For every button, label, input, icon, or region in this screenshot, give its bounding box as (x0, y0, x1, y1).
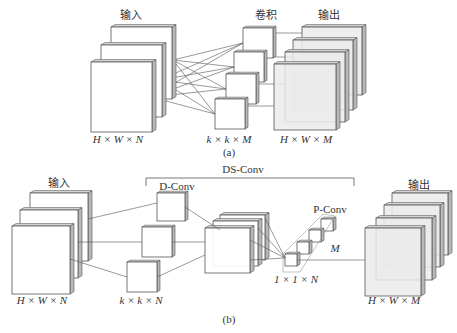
card-side (172, 225, 175, 257)
card-side (250, 226, 254, 273)
card-front (205, 228, 250, 273)
card-side (345, 50, 349, 122)
card-side (421, 226, 425, 296)
card-side (162, 43, 166, 117)
caption-b: (b) (223, 313, 236, 326)
input-card-b-3 (12, 224, 74, 294)
p-conv-label: P-Conv (313, 203, 347, 215)
card-front (215, 99, 245, 129)
card-side (321, 228, 324, 242)
p-conv-count: M (329, 242, 340, 254)
card-front (12, 226, 70, 294)
card-side (70, 224, 74, 294)
output-dim-a: H × W × M (279, 133, 333, 145)
card-side (448, 191, 452, 255)
card-side (297, 252, 300, 266)
dconv-kernel-2 (142, 225, 175, 257)
conv-title-a: 卷积 (255, 8, 277, 22)
input-title-a: 输入 (120, 8, 142, 22)
input-card-a-3 (91, 60, 156, 132)
input-to-kernel-line-a (173, 60, 226, 89)
card-side (336, 62, 340, 130)
intermediate-card-3 (205, 226, 254, 273)
output-dim-b: H × W × M (367, 294, 421, 306)
output-title-b: 输出 (408, 178, 430, 192)
d-conv-label: D-Conv (159, 180, 195, 192)
card-side (353, 38, 357, 110)
pointwise-dim-b: 1 × 1 × N (274, 273, 319, 285)
shapes (12, 25, 452, 296)
card-side (333, 217, 336, 231)
diagram-canvas: 输入 卷积 输出 H × W × N k × k × M H × W × M (… (0, 0, 457, 333)
card-side (258, 219, 262, 266)
card-side (309, 240, 312, 254)
card-side (362, 25, 366, 95)
card-side (88, 191, 92, 261)
card-side (78, 208, 82, 278)
depthwise-dim-b: k × k × N (120, 294, 164, 306)
input-dim-b: H × W × N (16, 294, 68, 306)
card-front (91, 62, 152, 132)
input-title-b: 输入 (48, 176, 70, 190)
dconv-kernel-1 (157, 191, 188, 221)
card-front (365, 228, 421, 296)
card-side (273, 26, 276, 58)
input-to-kernel-line-a (173, 43, 243, 60)
output-card-b-4 (365, 226, 425, 296)
output-title-a: 输出 (318, 8, 340, 22)
card-front (142, 227, 172, 257)
kernel-a-4 (215, 97, 248, 129)
dconv-to-intermediate-line (157, 255, 205, 277)
kernel-dim-a: k × k × M (207, 133, 253, 145)
output-card-a-4 (274, 62, 340, 130)
caption-a: (a) (223, 146, 236, 159)
pconv-kernel-1 (285, 252, 300, 266)
card-side (264, 50, 267, 82)
card-side (152, 60, 156, 132)
card-side (440, 203, 444, 267)
input-to-dconv-line (88, 203, 157, 219)
card-front (127, 262, 157, 292)
card-side (185, 191, 188, 221)
dconv-to-intermediate-line (185, 207, 220, 230)
card-side (256, 72, 259, 104)
dconv-kernel-3 (127, 260, 160, 292)
ds-conv-label: DS-Conv (222, 163, 264, 175)
card-front (274, 64, 336, 130)
card-side (432, 216, 436, 280)
card-side (245, 97, 248, 129)
card-front (157, 193, 185, 221)
card-side (172, 25, 176, 99)
input-dim-a: H × W × N (92, 133, 144, 145)
card-front (285, 254, 297, 266)
